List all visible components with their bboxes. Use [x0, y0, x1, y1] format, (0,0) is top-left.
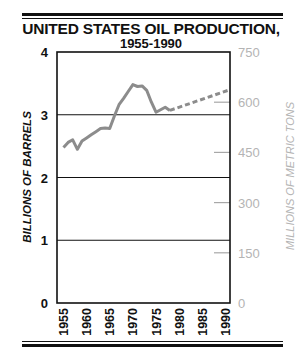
y-axis-label-left: BILLIONS OF BARRELS [21, 107, 33, 247]
chart-plot: 0123401503004506007501955196019651970197… [0, 0, 302, 354]
bottom-rule-thick [22, 344, 283, 347]
y-tick-label-right: 600 [238, 95, 260, 110]
y-tick-label-right: 150 [238, 246, 260, 261]
y-tick-label-right: 0 [238, 296, 245, 311]
x-tick-label: 1975 [150, 308, 164, 336]
x-tick-label: 1970 [126, 308, 140, 336]
x-tick-label: 1955 [57, 308, 71, 336]
x-tick-label: 1960 [80, 308, 94, 336]
y-tick-label-right: 300 [238, 196, 260, 211]
y-tick-label-left: 3 [41, 108, 48, 123]
y-tick-label-left: 0 [41, 296, 48, 311]
y-tick-label-right: 450 [238, 145, 260, 160]
production-line [64, 85, 170, 150]
y-tick-label-left: 4 [41, 45, 49, 60]
projection-line [170, 90, 230, 111]
y-axis-label-right: MILLIONS OF METRIC TONS [284, 86, 296, 266]
y-tick-label-left: 2 [41, 171, 48, 186]
x-tick-label: 1965 [103, 308, 117, 336]
x-tick-label: 1990 [219, 308, 233, 336]
x-tick-label: 1980 [173, 308, 187, 336]
y-tick-label-right: 750 [238, 45, 260, 60]
y-tick-label-left: 1 [41, 233, 48, 248]
bottom-rule-thin [22, 341, 283, 342]
x-tick-label: 1985 [196, 308, 210, 336]
